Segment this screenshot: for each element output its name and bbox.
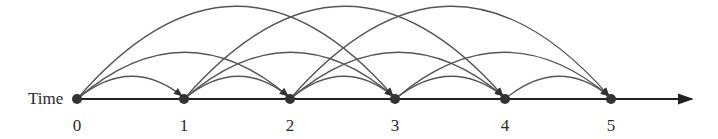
- time-nodes: 012345: [72, 94, 616, 135]
- arc-0-to-3: [77, 6, 393, 99]
- arc-1-to-2: [184, 76, 288, 99]
- node-label-5: 5: [607, 116, 616, 135]
- node-label-1: 1: [180, 116, 189, 135]
- node-label-4: 4: [501, 116, 510, 135]
- node-label-0: 0: [73, 116, 82, 135]
- node-2: [285, 94, 295, 104]
- axis-label-time: Time: [28, 89, 63, 108]
- arc-3-to-5: [395, 52, 609, 99]
- node-label-2: 2: [286, 116, 295, 135]
- node-label-3: 3: [391, 116, 400, 135]
- arc-1-to-4: [184, 6, 503, 99]
- arc-2-to-5: [290, 6, 609, 99]
- time-dependency-diagram: Time 012345: [0, 0, 718, 139]
- arc-0-to-2: [77, 52, 288, 99]
- arc-2-to-4: [290, 52, 503, 99]
- dependency-arcs: [77, 6, 609, 99]
- node-4: [500, 94, 510, 104]
- node-1: [179, 94, 189, 104]
- node-3: [390, 94, 400, 104]
- arc-0-to-1: [77, 76, 182, 99]
- node-0: [72, 94, 82, 104]
- arc-1-to-3: [184, 52, 393, 99]
- arc-3-to-4: [395, 76, 503, 99]
- node-5: [606, 94, 616, 104]
